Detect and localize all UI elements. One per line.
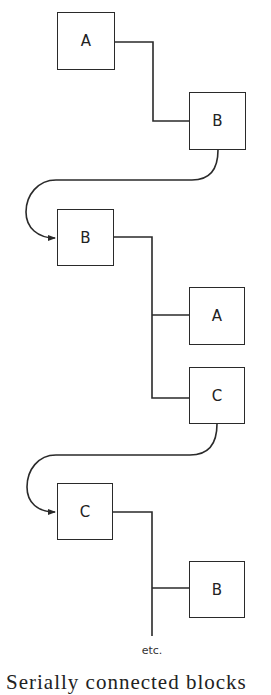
block-label: B [212, 581, 222, 599]
block-label: A [81, 32, 91, 50]
connector-b-b2-curve [26, 150, 218, 238]
continuation-label: etc. [136, 644, 168, 657]
block-label: C [80, 503, 90, 521]
block-b-3: B [189, 561, 245, 618]
block-label: A [212, 307, 222, 325]
block-a-2: A [189, 287, 245, 345]
block-c-2: C [57, 483, 113, 540]
figure-caption: Serially connected blocks [6, 670, 247, 695]
block-label: C [212, 387, 222, 405]
block-c-1: C [189, 367, 245, 424]
block-label: B [212, 112, 222, 130]
connector-c2-branch [113, 512, 152, 636]
block-b-2: B [57, 209, 114, 266]
connector-b2-branch [114, 237, 189, 398]
connector-c-c2-curve [27, 424, 217, 512]
block-b-1: B [189, 92, 246, 150]
connector-a-b [115, 42, 189, 121]
block-a-1: A [57, 12, 115, 70]
block-label: B [80, 229, 90, 247]
